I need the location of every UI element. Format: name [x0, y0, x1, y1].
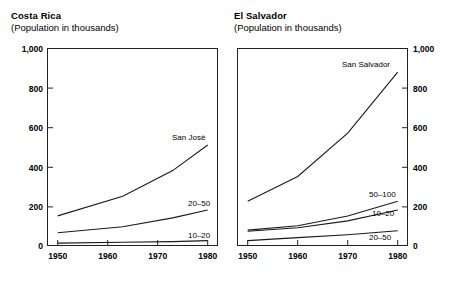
- figure-panels: Costa Rica (Population in thousands) 1,0…: [0, 0, 452, 287]
- xtick-label-costa-rica-1970: 1970: [138, 251, 178, 261]
- ytick-label-el-salvador-0: 0: [413, 241, 451, 251]
- series-label-20-50-el-salvador: 20–50: [369, 233, 391, 242]
- series-label-10-20-costa-rica: 10–20: [188, 231, 210, 240]
- ytick-label-costa-rica-600: 600: [7, 123, 43, 133]
- ytick-label-costa-rica-200: 200: [7, 202, 43, 212]
- xtick-label-el-salvador-1970: 1970: [328, 251, 368, 261]
- ytick-label-costa-rica-0: 0: [7, 241, 43, 251]
- series-label-san-salvador: San Salvador: [342, 60, 390, 69]
- ytick-label-el-salvador-800: 800: [413, 84, 451, 94]
- ytick-label-el-salvador-400: 400: [413, 163, 451, 173]
- xtick-label-costa-rica-1950: 1950: [38, 251, 78, 261]
- ytick-label-el-salvador-200: 200: [413, 202, 451, 212]
- series-label-san-jose: San José: [172, 133, 205, 142]
- ytick-label-costa-rica-400: 400: [7, 163, 43, 173]
- xtick-label-el-salvador-1950: 1950: [228, 251, 268, 261]
- series-label-10-20-el-salvador: 10–20: [372, 209, 394, 218]
- xtick-label-costa-rica-1980: 1980: [188, 251, 228, 261]
- xtick-label-costa-rica-1960: 1960: [88, 251, 128, 261]
- ytick-label-el-salvador-600: 600: [413, 123, 451, 133]
- panel-costa-rica: Costa Rica (Population in thousands) 1,0…: [0, 0, 226, 287]
- xtick-label-el-salvador-1960: 1960: [278, 251, 318, 261]
- series-label-50-100-el-salvador: 50–100: [369, 190, 396, 199]
- ytick-label-costa-rica-1000: 1,000: [7, 44, 43, 54]
- xtick-label-el-salvador-1980: 1980: [378, 251, 418, 261]
- series-label-20-50-costa-rica: 20–50: [188, 199, 210, 208]
- panel-el-salvador: El Salvador (Population in thousands): [226, 0, 452, 287]
- ytick-label-el-salvador-1000: 1,000: [413, 44, 451, 54]
- ytick-label-costa-rica-800: 800: [7, 84, 43, 94]
